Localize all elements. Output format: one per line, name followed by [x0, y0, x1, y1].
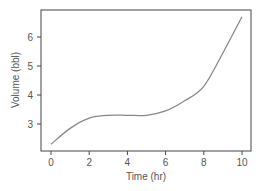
y-tick-label: 3 — [27, 119, 33, 130]
x-tick-label: 6 — [163, 157, 169, 168]
y-axis-label: Volume (bbl) — [10, 52, 21, 108]
line-chart: 0246810 3456 Time (hr) Volume (bbl) — [0, 0, 265, 191]
x-axis-ticks: 0246810 — [48, 151, 248, 168]
x-tick-label: 8 — [201, 157, 207, 168]
x-tick-label: 4 — [125, 157, 131, 168]
x-axis-label: Time (hr) — [126, 171, 166, 182]
y-tick-label: 4 — [27, 90, 33, 101]
y-axis-ticks: 3456 — [27, 32, 41, 130]
y-tick-label: 5 — [27, 61, 33, 72]
x-tick-label: 10 — [236, 157, 248, 168]
y-tick-label: 6 — [27, 32, 33, 43]
x-tick-label: 0 — [48, 157, 54, 168]
plot-frame — [41, 10, 251, 151]
volume-curve — [51, 17, 242, 145]
x-tick-label: 2 — [86, 157, 92, 168]
